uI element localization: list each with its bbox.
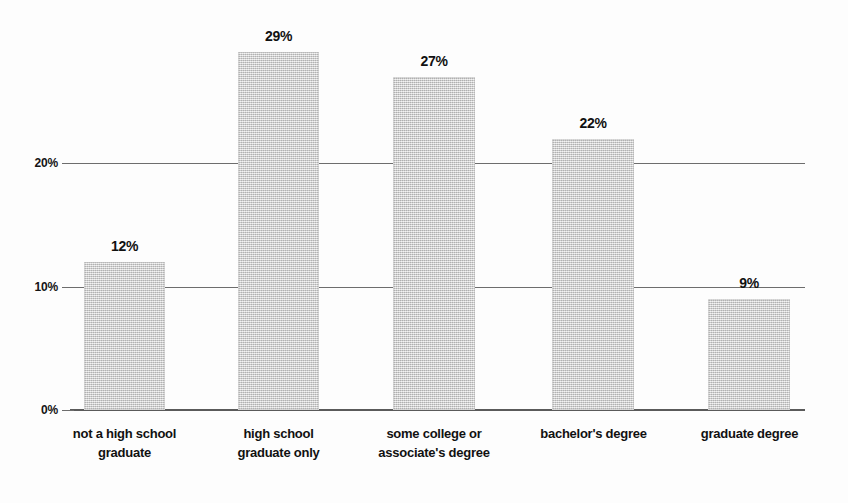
category-label-high-school-graduate-only: high school graduate only: [198, 424, 359, 462]
bar-value-some-college-or-associates-degree: 27%: [393, 53, 475, 69]
category-line-2: graduate: [44, 443, 205, 462]
bar-value-not-a-high-school-graduate: 12%: [84, 238, 165, 254]
category-line-1: graduate degree: [669, 424, 830, 443]
bar-value-graduate-degree: 9%: [708, 275, 790, 291]
y-axis-label-20: 20%: [0, 156, 58, 170]
plot-area: 20% 10% 0% 12% 29% 27% 22% 9% not a high…: [0, 0, 848, 503]
category-line-1: bachelor's degree: [513, 424, 674, 443]
y-axis-label-0: 0%: [0, 403, 58, 417]
bar-value-bachelors-degree: 22%: [552, 115, 634, 131]
tick-stub-20: [62, 163, 74, 164]
bar-not-a-high-school-graduate: [84, 262, 165, 410]
category-label-graduate-degree: graduate degree: [669, 424, 830, 443]
bar-some-college-or-associates-degree: [393, 77, 475, 410]
category-label-not-a-high-school-graduate: not a high school graduate: [44, 424, 205, 462]
category-line-1: high school: [198, 424, 359, 443]
bar-high-school-graduate-only: [238, 52, 319, 410]
y-axis-label-10: 10%: [0, 280, 58, 294]
category-line-2: graduate only: [198, 443, 359, 462]
category-line-1: not a high school: [44, 424, 205, 443]
tick-stub-10: [62, 287, 74, 288]
bar-value-high-school-graduate-only: 29%: [238, 28, 319, 44]
bar-graduate-degree: [708, 299, 790, 410]
tick-stub-0: [62, 410, 74, 411]
bar-bachelors-degree: [552, 139, 634, 410]
category-line-2: associate's degree: [349, 443, 519, 462]
category-label-some-college-or-associates-degree: some college or associate's degree: [349, 424, 519, 462]
bar-chart: 20% 10% 0% 12% 29% 27% 22% 9% not a high…: [0, 0, 848, 503]
category-label-bachelors-degree: bachelor's degree: [513, 424, 674, 443]
category-line-1: some college or: [349, 424, 519, 443]
